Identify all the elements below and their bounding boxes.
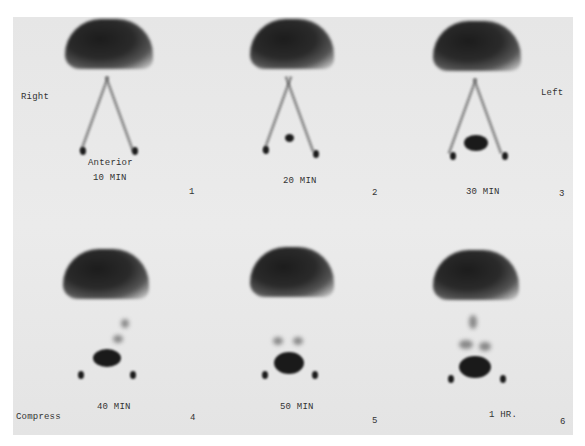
marker-right [312,371,318,379]
scan-panel-2 [248,19,368,199]
marker-right [130,371,136,379]
panel-2-index: 2 [372,188,377,198]
panel-4-time: 40 MIN [97,402,131,412]
panel-4-index: 4 [190,413,195,423]
liver-uptake [250,19,334,69]
marker-left [448,375,454,383]
liver-uptake [250,247,334,297]
liver-uptake [433,21,521,71]
panel-2-time: 20 MIN [283,176,317,186]
ureter-left [79,76,109,152]
ureter-right [104,76,134,152]
bowel-uptake [459,340,473,349]
liver-uptake [63,249,149,299]
view-label: Anterior [88,158,133,168]
bladder-uptake [464,135,488,151]
panel-1-time: 10 MIN [93,173,127,183]
scan-panel-3 [431,21,551,201]
marker-right [500,375,506,383]
liver-uptake [433,250,519,300]
bowel-uptake [469,315,477,329]
marker-right [313,150,319,158]
liver-uptake [65,19,153,69]
panel-5-time: 50 MIN [280,402,314,412]
bladder-uptake [93,349,121,367]
panel-1-index: 1 [189,187,194,197]
marker-right [502,152,508,160]
bladder-uptake [459,356,491,378]
bowel-uptake [113,335,123,343]
compress-label: Compress [16,412,61,422]
marker-right [132,147,138,155]
scan-panel-5 [248,247,368,427]
marker-left [450,152,456,160]
marker-left [263,146,269,154]
panel-3-time: 30 MIN [466,187,500,197]
panel-3-index: 3 [559,189,564,199]
panel-5-index: 5 [372,416,377,426]
scan-panel-6 [431,250,551,430]
marker-left [80,147,86,155]
marker-left [262,371,268,379]
bowel-uptake [479,342,491,351]
scan-panel-1 [63,19,183,199]
scintigraphy-film: Right Left Anterior 10 MIN 1 20 MIN 2 30… [13,17,573,435]
panel-6-time: 1 HR. [489,410,517,420]
orientation-right-label: Right [21,92,49,102]
bowel-uptake [273,337,283,345]
panel-6-index: 6 [560,417,565,427]
bowel-uptake [121,319,129,328]
bladder-uptake [285,134,294,142]
marker-left [78,371,84,379]
orientation-left-label: Left [541,88,563,98]
bowel-uptake [293,337,303,345]
bladder-uptake [274,352,304,374]
